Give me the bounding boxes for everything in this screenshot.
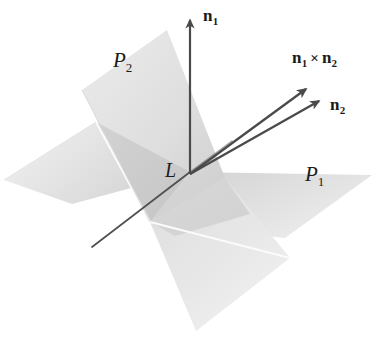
label-line-l: L	[165, 160, 176, 180]
label-n2-subscript: 2	[340, 104, 346, 116]
arrow-n1-cross-n2	[190, 89, 306, 174]
label-p1-base: P	[305, 162, 318, 186]
label-n1-subscript: 1	[213, 15, 219, 27]
label-p2-subscript: 2	[126, 60, 133, 75]
label-plane-p1: P1	[305, 164, 324, 188]
label-plane-p2: P2	[113, 50, 132, 74]
geometry-figure: n1 n1×n2 n2 P2 P1 L	[0, 0, 387, 339]
cross-product-operator-icon: ×	[307, 50, 322, 66]
label-n1-cross-n2: n1×n2	[292, 49, 337, 69]
label-cross-left-base: n	[292, 48, 302, 67]
label-n1: n1	[203, 7, 218, 27]
label-n1-base: n	[203, 6, 213, 25]
label-cross-right-base: n	[322, 48, 332, 67]
label-n2-base: n	[330, 95, 340, 114]
arrow-n2	[190, 101, 319, 174]
label-cross-right-subscript: 2	[332, 57, 338, 69]
label-p1-subscript: 1	[318, 174, 325, 189]
label-p2-base: P	[113, 48, 126, 72]
label-n2: n2	[330, 96, 345, 116]
